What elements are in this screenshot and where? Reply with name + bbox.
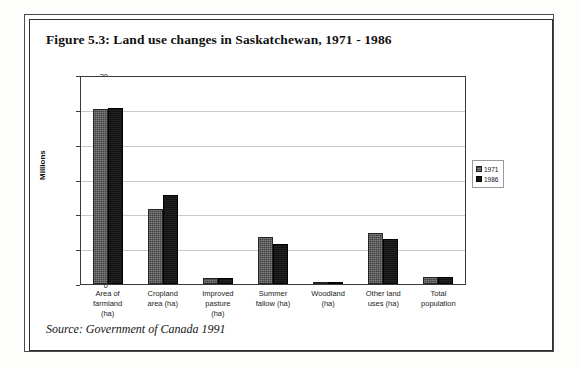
bar-1971	[148, 209, 163, 284]
legend-swatch-icon-1971	[476, 166, 482, 172]
bar-group	[356, 233, 411, 284]
chart-legend: 1971 1986	[472, 160, 504, 188]
bar-1986	[383, 239, 398, 284]
bar-1986	[218, 278, 233, 284]
bar-group	[245, 237, 300, 284]
bar-1986	[108, 108, 123, 284]
legend-item-1986: 1986	[476, 174, 500, 184]
bar-group	[190, 278, 245, 284]
x-axis-category-label: Summerfallow (ha)	[245, 289, 300, 309]
legend-swatch-icon-1986	[476, 176, 482, 182]
x-axis-category-label: Improvedpasture(ha)	[190, 289, 245, 319]
bar-1971	[368, 233, 383, 284]
bar-group	[135, 195, 190, 284]
y-axis-label: Millions	[38, 150, 47, 180]
x-axis-category-label: Woodland(ha)	[301, 289, 356, 309]
bar-1986	[328, 282, 343, 284]
legend-item-1971: 1971	[476, 164, 500, 174]
bar-1986	[163, 195, 178, 284]
bar-group	[80, 108, 135, 284]
bar-1971	[258, 237, 273, 284]
bars-layer	[80, 76, 466, 284]
x-axis-category-label: Area offarmland(ha)	[80, 289, 135, 319]
bar-group	[411, 277, 466, 284]
bar-1971	[93, 109, 108, 284]
bar-group	[301, 282, 356, 284]
bar-1971	[313, 282, 328, 284]
x-axis-category-label: Other landuses (ha)	[356, 289, 411, 309]
legend-label-1986: 1986	[484, 176, 498, 183]
y-axis-tick-mark	[76, 285, 80, 286]
bar-1971	[203, 278, 218, 284]
bar-chart: Millions 051015202530 Area offarmland(ha…	[0, 0, 578, 369]
legend-label-1971: 1971	[484, 166, 498, 173]
bar-1986	[273, 244, 288, 284]
source-note: Source: Government of Canada 1991	[46, 322, 226, 337]
x-axis-category-label: Totalpopulation	[411, 289, 466, 309]
figure-page: Figure 5.3: Land use changes in Saskatch…	[0, 0, 578, 369]
x-axis-category-label: Croplandarea (ha)	[135, 289, 190, 309]
bar-1971	[423, 277, 438, 284]
bar-1986	[438, 277, 453, 284]
